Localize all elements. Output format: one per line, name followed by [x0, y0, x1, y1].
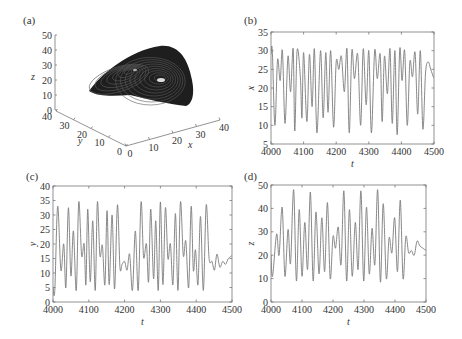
x-tick-label: 4500	[222, 304, 242, 315]
x-tick-label: 4400	[391, 146, 411, 157]
y-tick-label: 40	[258, 203, 268, 214]
x-tick-label: 4100	[294, 146, 314, 157]
x-axis-label: t	[347, 316, 350, 327]
y-tick-label: 15	[258, 101, 268, 112]
x-tick-label: 4200	[323, 304, 343, 315]
y-tick-label: 25	[40, 224, 50, 235]
figure: (a) 01020304050 z 010203040 y 010203040 …	[0, 0, 462, 339]
z-tick-label: 10	[42, 90, 52, 101]
z-axis-label: z	[30, 71, 35, 82]
plot-c: 4000410042004300440045000510152025303540…	[27, 181, 242, 328]
y-tick-label: 30	[60, 120, 70, 131]
x-tick-label: 4500	[416, 304, 436, 315]
plot-d: 40004100420043004400450001020304050tz	[245, 180, 436, 328]
panel-d-label: (d)	[244, 170, 257, 183]
y-tick-label: 0	[263, 297, 268, 308]
panel-c: (c) 400041004200430044004500051015202530…	[26, 170, 242, 327]
z-tick-label: 40	[42, 45, 52, 56]
y-tick-label: 10	[258, 273, 268, 284]
panel-c-label: (c)	[26, 170, 39, 183]
x-tick-label: 4300	[354, 304, 374, 315]
y-tick-label: 35	[40, 195, 50, 206]
panel-a: (a) 01020304050 z 010203040 y 010203040 …	[23, 14, 229, 159]
y-tick-label: 5	[263, 139, 268, 150]
z-tick-label: 50	[42, 30, 52, 41]
x-axis-label: t	[351, 158, 354, 169]
y-tick-label: 5	[45, 282, 50, 293]
z-tick-label: 30	[42, 60, 52, 71]
x-tick-label: 4200	[115, 304, 135, 315]
y-tick-label: 15	[40, 253, 50, 264]
y-tick-label: 20	[258, 83, 268, 94]
x-tick-label: 4400	[186, 304, 206, 315]
y-tick-label: 0	[45, 297, 50, 308]
y-tick-label: 50	[258, 180, 268, 191]
panel-d: (d) 40004100420043004400450001020304050t…	[244, 170, 436, 327]
data-series	[271, 190, 426, 283]
y-axis-label: y	[27, 241, 38, 247]
y-axis-ticks: 010203040	[42, 109, 128, 157]
y-tick-label: 30	[258, 226, 268, 237]
y-tick-label: 40	[40, 181, 50, 192]
x-tick-label: 4300	[359, 146, 379, 157]
y-axis-label: y	[77, 135, 83, 146]
x-axis-label: x	[187, 139, 193, 150]
x-tick-label: 4300	[150, 304, 170, 315]
panel-b-label: (b)	[244, 14, 257, 27]
x-tick-label: 4100	[292, 304, 312, 315]
panel-a-label: (a)	[23, 14, 36, 27]
data-series	[271, 46, 434, 135]
y-tick-label: 10	[258, 120, 268, 131]
x-axis-label: t	[141, 316, 144, 327]
y-axis-label: z	[245, 241, 256, 246]
y-tick-label: 30	[258, 45, 268, 56]
x-tick-label: 4500	[424, 146, 444, 157]
x-tick-label: 10	[149, 142, 159, 153]
x-tick-label: 4100	[79, 304, 99, 315]
y-axis-label: x	[245, 85, 256, 91]
panel-b: (b) 400041004200430044004500510152025303…	[244, 14, 444, 169]
x-tick-label: 30	[196, 129, 206, 140]
x-axis-ticks: 010203040	[125, 118, 229, 160]
plot-b: 4000410042004300440045005101520253035tx	[245, 27, 444, 170]
y-tick-label: 20	[258, 250, 268, 261]
x-tick-label: 20	[172, 135, 182, 146]
x-tick-label: 4200	[326, 146, 346, 157]
y-tick-label: 25	[258, 64, 268, 75]
attractor-shape	[86, 46, 193, 106]
y-tick-label: 40	[42, 111, 52, 122]
y-tick-label: 30	[40, 210, 50, 221]
y-tick-label: 0	[117, 146, 122, 157]
y-tick-label: 35	[258, 27, 268, 38]
y-tick-label: 20	[40, 239, 50, 250]
data-series	[53, 202, 232, 296]
y-tick-label: 10	[40, 268, 50, 279]
x-tick-label: 40	[219, 122, 229, 133]
x-tick-label: 0	[128, 148, 133, 159]
z-tick-label: 20	[42, 75, 52, 86]
x-tick-label: 4400	[385, 304, 405, 315]
y-tick-label: 10	[95, 137, 105, 148]
